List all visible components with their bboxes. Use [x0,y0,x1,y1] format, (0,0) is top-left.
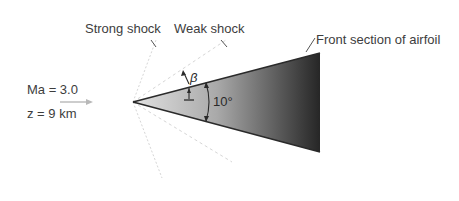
flow-arrow-icon [60,99,93,105]
beta-label: β [190,70,197,85]
altitude-label: z = 9 km [27,106,77,121]
weak-shock-label: Weak shock [174,21,245,36]
airfoil-leader [306,38,315,52]
wedge-angle-label: 10° [213,94,233,109]
mach-number-label: Ma = 3.0 [27,82,78,97]
airfoil-label: Front section of airfoil [316,32,440,47]
strong-shock-label: Strong shock [85,21,161,36]
